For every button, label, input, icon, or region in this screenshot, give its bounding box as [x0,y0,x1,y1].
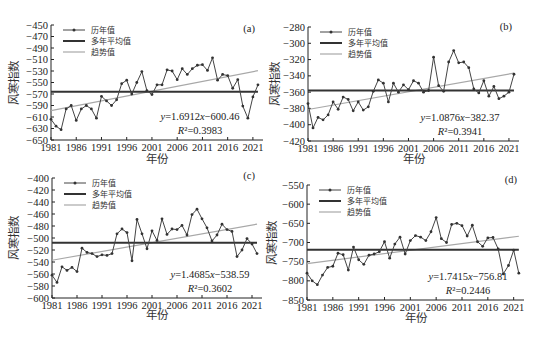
y-tick-label: −440 [27,197,49,208]
x-tick-label: 2006 [423,143,444,154]
y-tick-label: −520 [27,245,49,256]
y-tick-label: −800 [282,275,304,286]
x-tick-label: 1996 [373,143,394,154]
y-tick-label: −400 [27,173,49,184]
y-tick-label: −570 [26,89,48,100]
data-point [397,91,400,94]
data-point [342,253,345,256]
data-point [517,272,520,275]
data-point [467,66,470,69]
data-point [432,56,435,59]
x-tick-label: 2006 [426,302,447,313]
data-point [430,230,433,233]
data-point [326,266,329,269]
data-point [252,95,255,98]
data-point [186,73,189,76]
data-point [55,125,58,128]
data-point [166,68,169,71]
data-point [317,116,320,119]
data-point [486,237,489,240]
data-point [76,270,79,273]
y-tick-label: −490 [26,43,48,54]
legend-label-mean: 多年平均值 [91,36,131,46]
r-squared: R²=0.3983 [177,125,222,136]
r-squared: R²=0.2446 [445,285,490,296]
data-point [111,252,114,255]
data-point [116,232,119,235]
data-point [471,224,474,227]
data-point [347,98,350,101]
data-point [130,93,133,96]
x-tick-label: 1996 [374,302,395,313]
data-point [462,61,465,64]
data-point [171,70,174,73]
data-point [110,104,113,107]
data-point [186,234,189,237]
r-squared: R²=0.3602 [187,283,232,294]
y-tick-label: −460 [27,209,49,220]
data-point [331,265,334,268]
data-point [86,251,89,254]
x-tick-label: 2016 [217,142,238,153]
data-point [236,78,239,81]
panel-label: (c) [243,170,255,182]
data-point [206,69,209,72]
regression-equation: y=1.6912x−600.46 [160,111,240,122]
legend-label-mean: 多年平均值 [92,189,132,199]
data-point [367,105,370,108]
data-point [487,95,490,98]
y-tick-label: −580 [27,281,49,292]
data-point [508,91,511,94]
data-point [191,67,194,70]
y-tick-label: −750 [282,256,304,267]
data-point [507,264,510,267]
data-point [440,237,443,240]
data-point [513,73,516,76]
data-point [85,104,88,107]
x-axis-label: 年份 [146,308,169,321]
data-point [206,226,209,229]
data-point [447,61,450,64]
data-point [100,95,103,98]
x-axis-label: 年份 [403,152,426,165]
data-point [161,83,164,86]
data-point [121,228,124,231]
data-point [125,79,128,82]
y-tick-label: −380 [283,103,305,114]
x-tick-label: 1991 [348,143,369,154]
y-tick-label: −400 [283,119,305,130]
y-tick-label: −360 [283,87,305,98]
data-point [141,232,144,235]
y-tick-label: −610 [26,112,48,123]
x-tick-label: 1986 [66,142,87,153]
y-tick-label: −560 [27,269,49,280]
x-tick-label: 2021 [242,142,263,153]
x-tick-label: 2011 [452,302,473,313]
data-point [176,78,179,81]
data-point [101,253,104,256]
data-point [417,82,420,85]
data-point [450,223,453,226]
data-point [191,213,194,216]
y-tick-label: −510 [26,54,48,65]
data-point [435,216,438,219]
data-point [140,70,143,73]
x-tick-label: 2021 [498,143,519,154]
data-point [321,274,324,277]
data-point [368,254,371,257]
y-tick-label: −530 [26,66,48,77]
data-point [352,246,355,249]
y-tick-label: −470 [26,31,48,42]
data-point [357,101,360,104]
data-point [481,245,484,248]
x-tick-label: 1991 [91,142,112,153]
data-point [457,61,460,64]
legend-label-series: 历年值 [348,27,372,37]
y-tick-label: −700 [282,237,304,248]
x-tick-label: 1996 [117,300,138,311]
data-point [156,239,159,242]
data-point [91,252,94,255]
data-point [221,73,224,76]
data-point [246,117,249,120]
data-point [427,89,430,92]
